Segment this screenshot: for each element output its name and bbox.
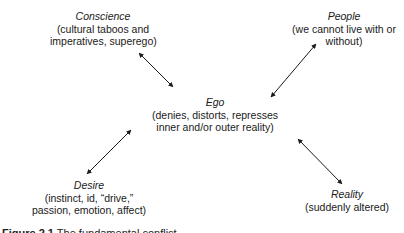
node-title: Ego <box>147 96 283 109</box>
node-desire: Desire (instinct, id, “drive,” passion, … <box>25 179 153 217</box>
node-reality: Reality (suddenly altered) <box>298 188 396 213</box>
node-title: Conscience <box>50 10 156 23</box>
arrow-reality-ego <box>298 139 342 184</box>
node-people: People (we cannot live with or without) <box>288 10 400 48</box>
node-desc-line: imperatives, superego) <box>50 35 156 48</box>
caption-text: The fundamental conflict <box>57 227 177 233</box>
figure-caption: Figure 2.1 The fundamental conflict <box>2 227 177 233</box>
arrow-conscience-ego <box>139 53 173 87</box>
node-title: Desire <box>25 179 153 192</box>
node-ego: Ego (denies, distorts, represses inner a… <box>147 96 283 134</box>
arrow-people-ego <box>271 44 316 97</box>
arrow-desire-ego <box>87 130 131 174</box>
node-title: People <box>288 10 400 23</box>
caption-label: Figure 2.1 <box>2 227 54 233</box>
node-desc-line: (denies, distorts, represses <box>147 109 283 122</box>
node-desc-line: passion, emotion, affect) <box>25 204 153 217</box>
node-title: Reality <box>298 188 396 201</box>
node-desc-line: inner and/or outer reality) <box>147 121 283 134</box>
node-conscience: Conscience (cultural taboos and imperati… <box>50 10 156 48</box>
node-desc-line: without) <box>288 35 400 48</box>
node-desc-line: (we cannot live with or <box>288 23 400 36</box>
node-desc-line: (cultural taboos and <box>50 23 156 36</box>
node-desc-line: (suddenly altered) <box>298 201 396 214</box>
node-desc-line: (instinct, id, “drive,” <box>25 192 153 205</box>
